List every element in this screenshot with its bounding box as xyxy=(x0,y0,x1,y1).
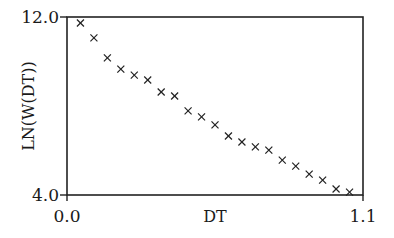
data-point-marker xyxy=(104,54,111,61)
x-axis-label: DT xyxy=(203,207,227,226)
data-point-marker xyxy=(319,177,326,184)
scatter-chart: 12.0 4.0 0.0 1.1 DT LN(W(DT)) xyxy=(0,0,394,238)
data-point-marker xyxy=(238,139,245,146)
data-point-marker xyxy=(292,163,299,170)
data-point-marker xyxy=(198,113,205,120)
data-point-marker xyxy=(90,34,97,41)
data-point-marker xyxy=(171,92,178,99)
data-point-marker xyxy=(225,133,232,140)
data-point-marker xyxy=(279,157,286,164)
data-point-marker xyxy=(117,66,124,73)
data-point-marker xyxy=(158,88,165,95)
data-point-marker xyxy=(333,185,340,192)
data-point-marker xyxy=(144,76,151,83)
y-tick-label-min: 4.0 xyxy=(32,185,59,205)
x-tick-label-min: 0.0 xyxy=(53,206,80,226)
data-point-marker xyxy=(77,20,84,27)
data-point-marker xyxy=(252,143,259,150)
x-tick-label-max: 1.1 xyxy=(349,206,376,226)
data-point-marker xyxy=(265,147,272,154)
y-axis-label: LN(W(DT)) xyxy=(19,61,38,151)
data-point-marker xyxy=(306,171,313,178)
data-point-marker xyxy=(212,121,219,128)
data-markers xyxy=(77,20,353,196)
data-point-marker xyxy=(131,72,138,79)
y-tick-label-max: 12.0 xyxy=(21,7,59,27)
plot-frame xyxy=(67,17,363,195)
data-point-marker xyxy=(185,107,192,114)
